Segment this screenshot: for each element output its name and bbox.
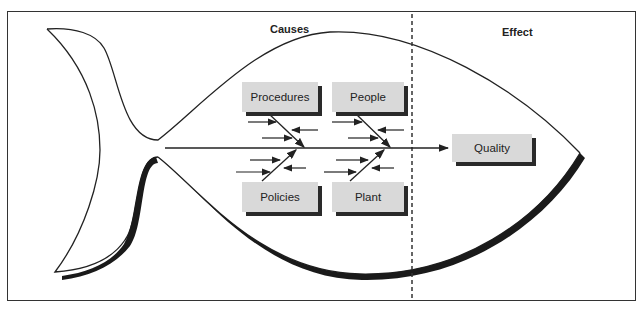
cause-box-plant: Plant <box>332 182 404 212</box>
effect-label: Effect <box>502 26 533 38</box>
cause-box-procedures: Procedures <box>242 82 318 112</box>
cause-box-people: People <box>332 82 404 112</box>
cause-box-policies: Policies <box>242 182 318 212</box>
fish-bottom-shadow <box>62 157 158 280</box>
fishbone-diagram: Causes Effect Procedures People Policies… <box>0 0 643 310</box>
causes-label: Causes <box>270 23 309 35</box>
fish-outline-graphic <box>0 0 643 310</box>
fish-bottom-outline <box>47 29 158 272</box>
fish-bottom-body <box>158 153 580 274</box>
effect-box-quality: Quality <box>452 134 532 162</box>
